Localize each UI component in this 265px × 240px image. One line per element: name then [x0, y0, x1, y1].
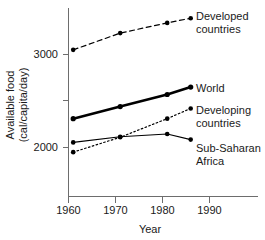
data-point [118, 135, 123, 140]
data-point [71, 140, 76, 145]
x-tick-label-1990: 1990 [197, 204, 221, 216]
legend-label-developed-countries-line1: Developed [196, 10, 249, 22]
x-tick-label-1960: 1960 [56, 204, 80, 216]
legend-label-sub-saharan-africa-line1: Sub-Saharan [196, 142, 261, 154]
y-axis-title-line2: (cal/capita/day) [17, 68, 29, 143]
y-tick-label-2000: 2000 [34, 141, 58, 153]
data-point [165, 92, 170, 97]
line-chart: 3000 2000 1960 1970 1980 1990 Year Avail… [0, 0, 265, 240]
series-world-line [73, 87, 191, 119]
legend-label-developed-countries-line2: countries [196, 23, 241, 35]
data-point [165, 21, 170, 26]
series-sub-saharan-africa-points [71, 132, 193, 145]
data-point [188, 84, 193, 89]
data-point [71, 150, 76, 155]
data-point [188, 106, 193, 111]
legend-label-developing-countries-line1: Developing [196, 104, 251, 116]
x-axis-title: Year [139, 223, 162, 235]
chart-container: 3000 2000 1960 1970 1980 1990 Year Avail… [0, 0, 265, 240]
data-point [118, 104, 123, 109]
series-developed-countries [71, 16, 193, 52]
data-point [188, 16, 193, 21]
legend-label-developing-countries-line2: countries [196, 117, 241, 129]
data-point [165, 116, 170, 121]
data-point [165, 132, 170, 137]
legend-label-world: World [196, 82, 225, 94]
x-tick-label-1980: 1980 [150, 204, 174, 216]
y-axis-title-line1: Available food [4, 71, 16, 140]
data-point [118, 31, 123, 36]
data-point [71, 48, 76, 53]
data-point [188, 137, 193, 142]
y-tick-label-3000: 3000 [34, 48, 58, 60]
x-tick-label-1970: 1970 [103, 204, 127, 216]
legend-label-sub-saharan-africa-line2: Africa [196, 155, 225, 167]
series-sub-saharan-africa [71, 132, 193, 145]
series-developed-countries-line [73, 18, 191, 50]
series-sub-saharan-africa-line [73, 134, 191, 142]
data-point [71, 116, 76, 121]
